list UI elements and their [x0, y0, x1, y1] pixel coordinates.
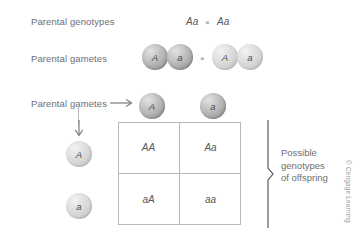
parental-gametes-label: Parental gametes — [31, 53, 107, 64]
vertical-arrow-icon — [72, 120, 86, 142]
punnett-cell-Aa: Aa — [180, 122, 241, 173]
square-side-allele-A: A — [66, 141, 92, 167]
offspring-bracket-icon — [264, 120, 276, 228]
parent-genotype-left: Aa — [186, 16, 198, 27]
offspring-caption-line-3: of offspring — [281, 172, 328, 185]
gamete-sphere-left-A: A — [142, 44, 168, 70]
gamete-cross-symbol: × — [200, 54, 205, 63]
gamete-sphere-left-a: a — [167, 44, 193, 70]
square-top-allele-A: A — [139, 93, 165, 119]
parental-genotypes-label: Parental genotypes — [31, 16, 115, 27]
gamete-sphere-right-a: a — [237, 44, 263, 70]
offspring-caption-line-2: genotypes — [281, 160, 328, 173]
square-gametes-label: Parental gametes — [31, 98, 107, 109]
square-top-allele-a: a — [200, 93, 226, 119]
parent-genotype-right: Aa — [217, 16, 229, 27]
offspring-caption-line-1: Possible — [281, 147, 328, 160]
punnett-cell-aa: aa — [180, 174, 241, 225]
gamete-sphere-right-A: A — [212, 44, 238, 70]
square-side-allele-a: a — [66, 193, 92, 219]
horizontal-arrow-icon — [110, 96, 140, 110]
punnett-square-figure: Parental genotypes Aa × Aa Parental game… — [0, 0, 360, 238]
offspring-caption: Possible genotypes of offspring — [281, 147, 328, 185]
punnett-cell-AA: AA — [118, 122, 179, 173]
punnett-cell-aA: aA — [118, 174, 179, 225]
copyright-credit: © Cengage Learning — [345, 160, 352, 223]
genotype-cross-symbol: × — [205, 18, 210, 27]
